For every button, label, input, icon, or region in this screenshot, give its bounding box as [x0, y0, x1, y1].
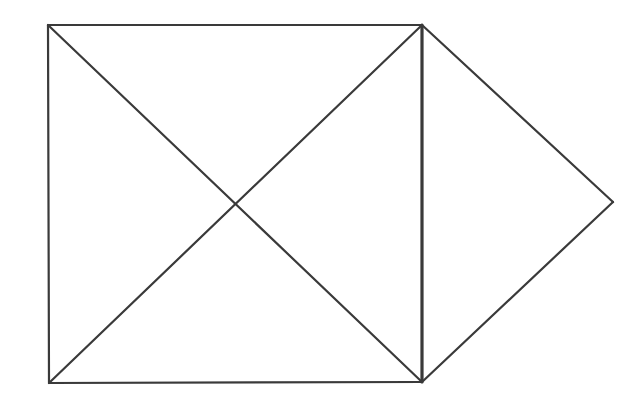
diagram-canvas	[0, 0, 637, 400]
square-with-diagonals-and-triangle-diagram	[0, 0, 637, 400]
background	[0, 0, 637, 400]
square-left-edge	[48, 25, 49, 383]
square-bottom-edge	[49, 382, 422, 383]
